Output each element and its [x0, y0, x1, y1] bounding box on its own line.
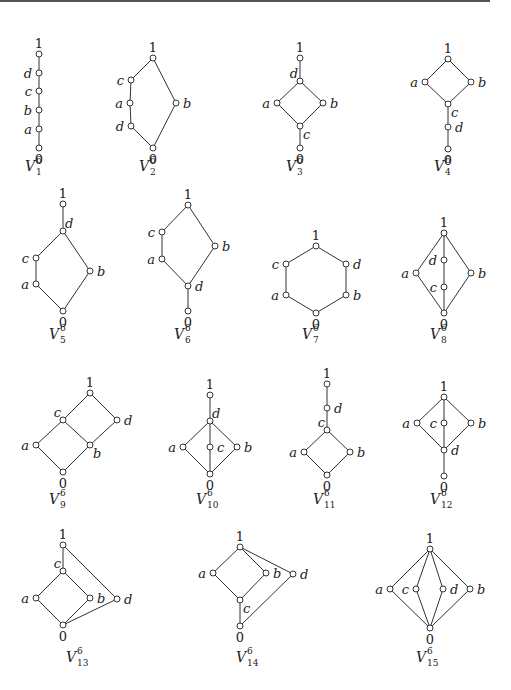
caption-superscript: 6 [185, 323, 191, 333]
edge [131, 126, 153, 148]
node-0 [324, 472, 330, 478]
node-label-c: c [430, 416, 438, 431]
node-d [440, 586, 446, 592]
caption-subscript: 8 [441, 335, 447, 345]
node-label-a: a [375, 582, 383, 597]
node-label-b: b [477, 582, 485, 597]
node-label-d: d [116, 119, 124, 134]
node-label-a: a [289, 445, 297, 460]
node-d [185, 283, 191, 289]
node-0 [207, 471, 213, 477]
node-0 [60, 308, 66, 314]
node-b [347, 449, 353, 455]
node-a [283, 292, 289, 298]
node-label-c: c [303, 127, 311, 142]
caption-superscript: 6 [313, 323, 319, 333]
lattice-v11: 1dcab0V611 [289, 366, 365, 510]
node-label-b: b [183, 96, 191, 111]
node-label-c: c [318, 415, 326, 430]
node-0 [313, 310, 319, 316]
lattice-v3: 1dabc0V63 [262, 40, 338, 177]
node-d [114, 596, 120, 602]
caption-superscript: 6 [441, 323, 447, 333]
node-label-0: 0 [426, 632, 434, 647]
node-1 [445, 56, 451, 62]
lattice-v8: 1dcab0V68 [401, 215, 486, 345]
edge [390, 589, 430, 628]
node-0 [60, 622, 66, 628]
lattice-caption: V613 [66, 646, 89, 668]
lattice-caption: V610 [196, 488, 219, 510]
node-d [445, 124, 451, 130]
edge [444, 233, 471, 273]
node-d [343, 261, 349, 267]
edge [425, 82, 448, 104]
lattice-v10: 1dacb0V610 [168, 377, 252, 510]
caption-subscript: 1 [36, 167, 42, 177]
node-label-d: d [124, 592, 132, 607]
edge [63, 599, 117, 625]
node-label-1: 1 [59, 186, 67, 201]
node-label-b: b [330, 96, 338, 111]
edge [304, 430, 327, 452]
node-label-d: d [334, 401, 342, 416]
edge [63, 420, 90, 445]
caption-subscript: 3 [297, 167, 303, 177]
node-label-c: c [430, 280, 438, 295]
node-0 [60, 469, 66, 475]
node-b [343, 292, 349, 298]
edge [240, 573, 266, 600]
node-label-d: d [290, 66, 298, 81]
node-a [36, 126, 42, 132]
lattice-v15: 1acdb0V615 [375, 531, 485, 668]
node-b [212, 243, 218, 249]
edge [316, 246, 346, 264]
node-a [159, 256, 165, 262]
node-a [414, 420, 420, 426]
node-b [263, 570, 269, 576]
node-a [274, 100, 280, 106]
node-d [324, 405, 330, 411]
node-label-b: b [24, 103, 32, 118]
lattice-v9: 1cdab0V69 [21, 375, 132, 510]
node-label-1: 1 [444, 41, 452, 56]
edge [277, 81, 300, 103]
caption-subscript: 6 [185, 335, 191, 345]
node-label-1: 1 [184, 187, 192, 202]
edge [36, 231, 63, 258]
node-label-a: a [402, 416, 410, 431]
node-label-c: c [402, 582, 410, 597]
edge [131, 58, 153, 80]
node-label-1: 1 [440, 379, 448, 394]
node-label-1: 1 [296, 40, 304, 55]
edge [448, 82, 471, 104]
node-d [290, 571, 296, 577]
node-label-b: b [478, 75, 486, 90]
caption-superscript: 6 [427, 646, 433, 656]
node-1 [324, 381, 330, 387]
edge [444, 397, 471, 423]
edge [63, 231, 90, 271]
node-label-1: 1 [236, 529, 244, 544]
lattice-v12: 1acbd0V612 [402, 379, 486, 510]
node-label-a: a [262, 96, 270, 111]
node-label-b: b [244, 440, 252, 455]
caption-subscript: 7 [313, 335, 319, 345]
caption-subscript: 5 [60, 335, 66, 345]
caption-superscript: 6 [77, 646, 83, 656]
caption-superscript: 6 [297, 155, 303, 165]
node-label-c: c [243, 601, 251, 616]
node-label-1: 1 [440, 215, 448, 230]
edge [416, 549, 430, 589]
node-label-b: b [357, 445, 365, 460]
node-b [467, 586, 473, 592]
node-label-d: d [455, 120, 463, 135]
node-label-c: c [25, 84, 33, 99]
edge [183, 447, 210, 474]
node-label-c: c [272, 257, 280, 272]
node-label-1: 1 [426, 531, 434, 546]
lattice-caption: V612 [430, 488, 453, 510]
caption-superscript: 6 [441, 488, 447, 498]
node-1 [441, 230, 447, 236]
lattice-caption: V67 [302, 323, 319, 345]
